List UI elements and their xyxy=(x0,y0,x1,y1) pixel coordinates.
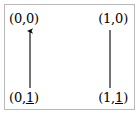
coord-first: 0 xyxy=(14,11,22,26)
coord-first: 1 xyxy=(103,11,111,26)
figure-canvas: (0,0) (1,0) (0,1) (1,1) xyxy=(0,0,139,115)
coord-second: 0 xyxy=(115,11,123,26)
vertex-label-bottom-left: (0,1) xyxy=(9,91,39,104)
paren-close: ) xyxy=(34,90,39,105)
paren-close: ) xyxy=(123,90,128,105)
vertex-label-top-right: (1,0) xyxy=(98,12,128,25)
vertex-label-top-left: (0,0) xyxy=(9,12,39,25)
vertex-label-bottom-right: (1,1) xyxy=(98,91,128,104)
coord-second-underlined: 1 xyxy=(115,90,123,105)
coord-second-underlined: 1 xyxy=(26,90,34,105)
coord-first: 1 xyxy=(103,90,111,105)
coord-first: 0 xyxy=(14,90,22,105)
paren-close: ) xyxy=(34,11,39,26)
paren-close: ) xyxy=(123,11,128,26)
coord-second: 0 xyxy=(26,11,34,26)
